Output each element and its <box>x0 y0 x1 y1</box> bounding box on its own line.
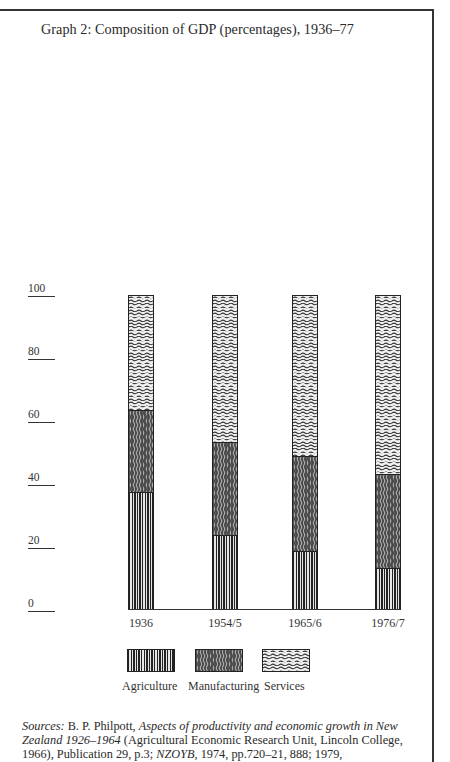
bar-segment-agriculture <box>376 568 400 609</box>
y-tick-40: 40 <box>28 471 55 486</box>
bar-1976-7 <box>375 295 401 610</box>
bar-segment-agriculture <box>213 535 237 609</box>
sources-yearbook: NZOYB <box>156 747 194 761</box>
legend-label-services: Services <box>264 679 305 694</box>
x-label-1976-7: 1976/7 <box>358 616 418 631</box>
y-tick-100: 100 <box>28 282 55 297</box>
bar-segment-manufacturing <box>213 442 237 536</box>
legend-swatch-manufacturing <box>195 649 243 672</box>
x-axis-line <box>128 609 401 610</box>
y-tick-20: 20 <box>28 534 55 549</box>
bar-segment-services <box>129 296 153 410</box>
y-tick-80: 80 <box>28 345 55 360</box>
bar-1954-5 <box>212 295 238 610</box>
chart-title: Graph 2: Composition of GDP (percentages… <box>41 21 354 38</box>
y-tick-60: 60 <box>28 408 55 423</box>
bar-segment-services <box>293 296 317 456</box>
sources-author: B. P. Philpott, <box>65 719 139 733</box>
bar-segment-manufacturing <box>293 456 317 551</box>
bar-segment-manufacturing <box>129 410 153 491</box>
sources-prefix: Sources: <box>22 719 65 733</box>
bar-segment-manufacturing <box>376 474 400 568</box>
x-label-1965-6: 1965/6 <box>275 616 335 631</box>
bar-1965-6 <box>292 295 318 610</box>
legend-label-agriculture: Agriculture <box>122 679 177 694</box>
legend-label-manufacturing: Manufacturing <box>188 679 259 694</box>
bar-segment-agriculture <box>129 492 153 609</box>
legend-swatch-agriculture <box>127 649 175 672</box>
bar-segment-services <box>376 296 400 474</box>
y-tick-0: 0 <box>28 597 55 612</box>
legend-swatch-services <box>262 649 310 672</box>
bar-1936 <box>128 295 154 610</box>
x-label-1936: 1936 <box>111 616 171 631</box>
bar-segment-agriculture <box>293 551 317 609</box>
bar-segment-services <box>213 296 237 442</box>
sources-note: Sources: B. P. Philpott, Aspects of prod… <box>22 720 432 761</box>
sources-tail: , 1974, pp.720–21, 888; 1979, <box>195 747 343 761</box>
x-label-1954-5: 1954/5 <box>195 616 255 631</box>
